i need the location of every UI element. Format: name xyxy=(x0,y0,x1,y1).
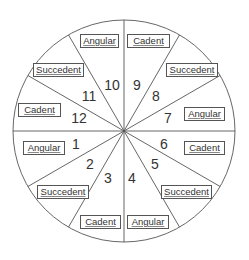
house-7-label: Angular xyxy=(184,107,225,121)
house-number-9: 9 xyxy=(133,78,141,92)
house-number-3: 3 xyxy=(104,171,112,185)
house-number-12: 12 xyxy=(71,111,87,125)
house-12-label: Cadent xyxy=(18,103,61,117)
house-number-7: 7 xyxy=(164,111,172,125)
house-3-label: Cadent xyxy=(80,215,121,229)
house-number-11: 11 xyxy=(82,89,97,103)
house-6-label: Cadent xyxy=(184,141,225,155)
house-number-5: 5 xyxy=(151,157,159,171)
house-number-1: 1 xyxy=(72,137,80,151)
house-8-label: Succedent xyxy=(166,63,218,77)
house-10-label: Angular xyxy=(80,34,119,48)
house-number-10: 10 xyxy=(104,78,120,92)
house-number-2: 2 xyxy=(86,157,94,171)
house-1-label: Angular xyxy=(23,141,65,155)
house-11-label: Succedent xyxy=(33,63,84,77)
spokes xyxy=(13,20,235,242)
house-number-6: 6 xyxy=(160,137,168,151)
house-2-label: Succedent xyxy=(37,185,89,199)
house-number-4: 4 xyxy=(128,171,136,185)
house-9-label: Cadent xyxy=(127,34,170,48)
house-number-8: 8 xyxy=(152,89,160,103)
house-5-label: Succedent xyxy=(161,185,212,199)
house-4-label: Angular xyxy=(127,215,169,229)
house-wheel xyxy=(0,0,249,260)
